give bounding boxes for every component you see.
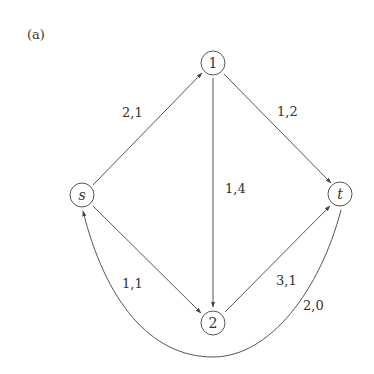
node-2-label: 2: [209, 315, 218, 331]
figure-caption: (a): [27, 27, 45, 42]
edge-label-t-s: 2,0: [303, 298, 324, 313]
node-t: t: [328, 182, 352, 206]
network-flow-diagram: (a) 2,1 1,2 1,4 1,1 3,1 2,0 s 1 2 t: [0, 0, 374, 374]
edge-label-1-2: 1,4: [225, 181, 246, 196]
edge-label-s-1: 2,1: [122, 105, 143, 120]
node-1: 1: [201, 51, 225, 75]
edge-s-to-2: [93, 206, 201, 313]
node-2: 2: [201, 311, 225, 335]
edge-label-2-t: 3,1: [276, 273, 297, 288]
node-s-label: s: [78, 187, 85, 203]
edge-1-to-t: [224, 74, 331, 183]
edge-s-to-1: [93, 73, 202, 185]
edge-labels: 2,1 1,2 1,4 1,1 3,1 2,0: [122, 104, 324, 313]
node-s: s: [70, 183, 94, 207]
node-1-label: 1: [209, 55, 218, 71]
node-t-label: t: [337, 186, 343, 202]
edge-label-s-2: 1,1: [122, 276, 143, 291]
edge-label-1-t: 1,2: [277, 104, 298, 119]
edge-2-to-t: [225, 206, 330, 312]
